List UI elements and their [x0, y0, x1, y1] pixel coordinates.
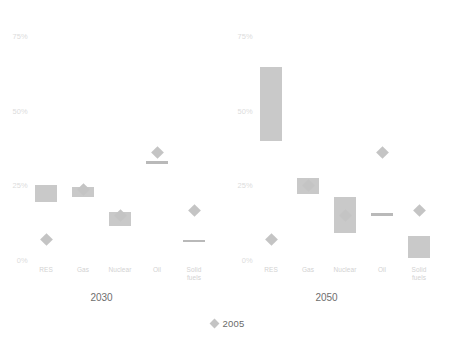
legend-label-2005: 2005	[223, 318, 245, 329]
marker-2005-diamond	[151, 146, 164, 159]
x-axis-tick-2030-4: Solid fuels	[174, 266, 214, 281]
x-axis-tick-2050-0: RES	[251, 266, 291, 274]
x-axis-tick-2030-2: Nuclear	[100, 266, 140, 274]
range-bar	[260, 67, 282, 140]
chart-legend: 2005	[0, 318, 455, 329]
y-axis-tick: 75%	[229, 32, 253, 41]
diamond-icon	[209, 319, 219, 329]
y-axis-tick: 50%	[229, 107, 253, 116]
range-bar	[408, 236, 430, 258]
range-bar	[371, 213, 393, 216]
range-bar	[183, 240, 205, 243]
chart-canvas: 0%25%50%75%RESGasNuclearOilSolid fuels20…	[0, 0, 455, 344]
y-axis-tick: 25%	[229, 181, 253, 190]
y-axis-tick: 75%	[4, 32, 28, 41]
marker-2005-diamond	[265, 233, 278, 246]
range-bar	[146, 161, 168, 164]
x-axis-tick-2030-0: RES	[26, 266, 66, 274]
x-axis-tick-2050-3: Oil	[362, 266, 402, 274]
x-axis-tick-2050-1: Gas	[288, 266, 328, 274]
x-axis-tick-2030-3: Oil	[137, 266, 177, 274]
x-axis-tick-2050-2: Nuclear	[325, 266, 365, 274]
y-axis-tick: 0%	[229, 256, 253, 265]
marker-2005-diamond	[188, 204, 201, 217]
marker-2005-diamond	[376, 146, 389, 159]
y-axis-tick: 50%	[4, 107, 28, 116]
panel-title-2030: 2030	[62, 292, 142, 303]
x-axis-tick-2050-4: Solid fuels	[399, 266, 439, 281]
y-axis-tick: 25%	[4, 181, 28, 190]
marker-2005-diamond	[40, 233, 53, 246]
x-axis-tick-2030-1: Gas	[63, 266, 103, 274]
marker-2005-diamond	[413, 204, 426, 217]
y-axis-tick: 0%	[4, 256, 28, 265]
range-bar	[35, 185, 57, 201]
panel-title-2050: 2050	[287, 292, 367, 303]
